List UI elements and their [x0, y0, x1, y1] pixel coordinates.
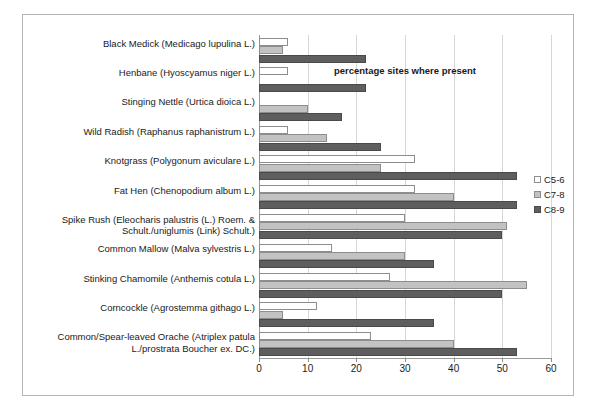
bar-c8-9 [259, 260, 434, 268]
category-label: Knotgrass (Polygonum aviculare L.) [39, 155, 255, 167]
bar-c8-9 [259, 84, 366, 92]
legend-swatch-icon [534, 206, 541, 213]
bar-c8-9 [259, 143, 381, 151]
bar-c5-6 [259, 185, 415, 193]
x-tick-60 [551, 358, 552, 362]
legend-item-c8-9: C8-9 [534, 202, 582, 217]
bar-c7-8 [259, 134, 327, 142]
bar-c8-9 [259, 290, 502, 298]
bar-group [259, 329, 551, 358]
bar-group [259, 299, 551, 328]
bar-c5-6 [259, 126, 288, 134]
x-tick-label-20: 20 [351, 363, 362, 374]
bar-group [259, 152, 551, 181]
category-label: Common Mallow (Malva sylvestris L.) [39, 243, 255, 255]
category-label: Stinking Chamomile (Anthemis cotula L.) [39, 273, 255, 285]
bar-group [259, 270, 551, 299]
category-label: Spike Rush (Eleocharis palustris (L.) Ro… [39, 214, 255, 237]
category-label: Corncockle (Agrostemma githago L.) [39, 302, 255, 314]
bar-c5-6 [259, 302, 317, 310]
bar-c7-8 [259, 105, 308, 113]
bar-c7-8 [259, 46, 283, 54]
category-label: Fat Hen (Chenopodium album L.) [39, 185, 255, 197]
bar-c5-6 [259, 38, 288, 46]
legend-item-c5-6: C5-6 [534, 172, 582, 187]
x-tick-label-30: 30 [399, 363, 410, 374]
x-tick-50 [502, 358, 503, 362]
bar-group [259, 241, 551, 270]
bar-c7-8 [259, 340, 454, 348]
legend-label: C5-6 [544, 174, 565, 185]
x-tick-30 [405, 358, 406, 362]
bar-c7-8 [259, 222, 507, 230]
category-label: Stinging Nettle (Urtica dioica L.) [39, 96, 255, 108]
category-label: Common/Spear-leaved Orache (Atriplex pat… [39, 331, 255, 354]
legend-label: C7-8 [544, 189, 565, 200]
bar-c8-9 [259, 319, 434, 327]
x-tick-label-40: 40 [448, 363, 459, 374]
chart-legend: C5-6C7-8C8-9 [534, 172, 582, 217]
category-label: Henbane (Hyoscyamus niger L.) [39, 67, 255, 79]
category-label: Wild Radish (Raphanus raphanistrum L.) [39, 126, 255, 138]
x-tick-40 [454, 358, 455, 362]
chart-page: Black Medick (Medicago lupulina L.)Henba… [0, 0, 594, 412]
bar-c7-8 [259, 252, 405, 260]
bar-c8-9 [259, 172, 517, 180]
bar-c5-6 [259, 155, 415, 163]
plot-area: Black Medick (Medicago lupulina L.)Henba… [259, 35, 551, 358]
x-tick-label-10: 10 [302, 363, 313, 374]
x-tick-10 [308, 358, 309, 362]
bar-group [259, 35, 551, 64]
bar-c7-8 [259, 311, 283, 319]
x-axis-title: percentage sites where present [259, 65, 551, 76]
legend-swatch-icon [534, 191, 541, 198]
x-tick-label-50: 50 [497, 363, 508, 374]
legend-item-c7-8: C7-8 [534, 187, 582, 202]
x-axis: 0102030405060 [259, 358, 551, 384]
bar-c8-9 [259, 348, 517, 356]
bar-group [259, 182, 551, 211]
legend-swatch-icon [534, 176, 541, 183]
bar-c5-6 [259, 273, 390, 281]
bar-group [259, 123, 551, 152]
bar-c7-8 [259, 164, 381, 172]
x-tick-label-0: 0 [256, 363, 262, 374]
bar-c8-9 [259, 113, 342, 121]
bar-c7-8 [259, 281, 527, 289]
x-tick-20 [356, 358, 357, 362]
bar-c8-9 [259, 231, 502, 239]
bar-c7-8 [259, 193, 454, 201]
bar-group [259, 211, 551, 240]
bar-c5-6 [259, 214, 405, 222]
bar-c5-6 [259, 244, 332, 252]
bar-c5-6 [259, 332, 371, 340]
legend-label: C8-9 [544, 204, 565, 215]
bar-group [259, 94, 551, 123]
bar-c8-9 [259, 55, 366, 63]
x-tick-label-60: 60 [545, 363, 556, 374]
category-label: Black Medick (Medicago lupulina L.) [39, 38, 255, 50]
x-tick-0 [259, 358, 260, 362]
bar-c8-9 [259, 201, 517, 209]
chart-frame: Black Medick (Medicago lupulina L.)Henba… [22, 14, 574, 396]
